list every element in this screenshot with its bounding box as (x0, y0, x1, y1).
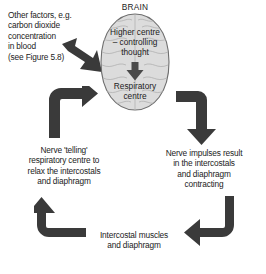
arrow-brain-to-nerve-impulses (176, 88, 224, 146)
respiratory-centre-label: Respiratory centre (98, 82, 172, 102)
arrow-muscles-to-nerve-telling (34, 196, 88, 250)
brain-illustration: BRAIN (98, 2, 172, 112)
brain-title-label: BRAIN (98, 2, 172, 12)
brain-internal-down-arrow-icon (126, 62, 144, 81)
step-nerve-telling-label: Nerve 'telling' respiratory centre to re… (8, 145, 120, 187)
step-nerve-impulses-label: Nerve impulses result in the intercostal… (148, 148, 260, 190)
higher-centre-label: Higher centre – controlling thought (98, 28, 172, 57)
arrow-nerve-telling-to-brain (44, 86, 100, 140)
step-intercostal-muscles-label: Intercostal muscles and diaphragm (86, 230, 182, 251)
arrow-nerve-impulses-to-muscles (183, 196, 237, 250)
diagram-canvas: Other factors, e.g. carbon dioxide conce… (0, 0, 266, 274)
